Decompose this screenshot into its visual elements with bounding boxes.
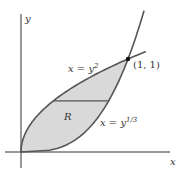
region-diagram: y x x = y2 x = y1/3 R (1, 1) xyxy=(0,0,177,175)
lower-curve-label-exp: 1/3 xyxy=(126,116,138,124)
x-axis-label: x xyxy=(170,156,176,167)
intersection-label: (1, 1) xyxy=(133,59,160,70)
lower-curve-label-base: x = y xyxy=(100,117,126,128)
upper-curve-label-exp: 2 xyxy=(93,62,99,70)
y-axis-label: y xyxy=(24,13,31,24)
upper-curve-label: x = y2 xyxy=(68,62,99,74)
upper-curve-label-base: x = y xyxy=(68,63,94,74)
intersection-point xyxy=(126,57,130,61)
region-label: R xyxy=(63,111,72,122)
figure: y x x = y2 x = y1/3 R (1, 1) xyxy=(0,0,177,175)
lower-curve-label: x = y1/3 xyxy=(100,116,138,128)
